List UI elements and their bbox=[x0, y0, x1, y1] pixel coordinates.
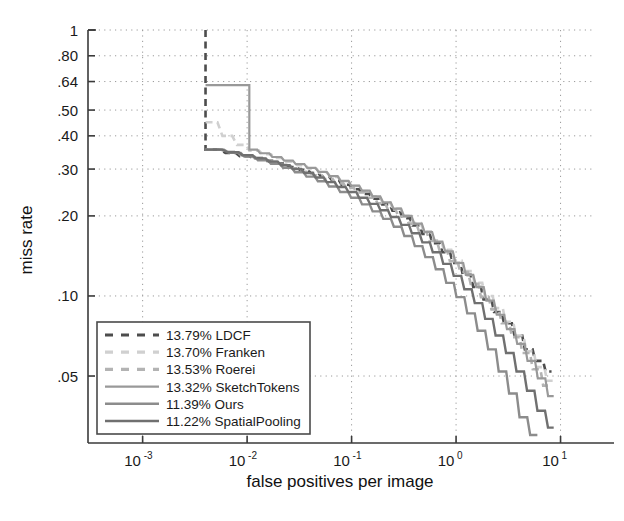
x-axis-label: false positives per image bbox=[246, 472, 433, 491]
x-tick-label-exponent: -3 bbox=[144, 450, 153, 461]
chart-svg: 10-310-210-1100101 1.80.64.50.40.30.20.1… bbox=[0, 0, 624, 521]
y-axis-label: miss rate bbox=[17, 206, 36, 275]
x-tick-label-exponent: -2 bbox=[248, 450, 257, 461]
y-tick-label: .30 bbox=[57, 161, 78, 178]
roc-miss-rate-chart: 10-310-210-1100101 1.80.64.50.40.30.20.1… bbox=[0, 0, 624, 521]
y-tick-label: .80 bbox=[57, 47, 78, 64]
legend-label-franken[interactable]: 13.70% Franken bbox=[166, 345, 265, 360]
y-tick-label: .05 bbox=[57, 368, 78, 385]
x-tick-label-base: 10 bbox=[229, 452, 246, 469]
x-tick-label-exponent: 0 bbox=[457, 450, 463, 461]
x-tick-label-base: 10 bbox=[542, 452, 559, 469]
legend-label-ldcf[interactable]: 13.79% LDCF bbox=[166, 328, 251, 343]
y-tick-label: .64 bbox=[57, 73, 78, 90]
x-tick-label-base: 10 bbox=[124, 452, 141, 469]
y-tick-label: .50 bbox=[57, 102, 78, 119]
legend-box[interactable]: 13.79% LDCF13.70% Franken13.53% Roerei13… bbox=[97, 322, 310, 434]
legend-label-roerei[interactable]: 13.53% Roerei bbox=[166, 362, 255, 377]
legend-label-spatialpooling[interactable]: 11.22% SpatialPooling bbox=[166, 414, 301, 429]
legend-label-sketchtokens[interactable]: 13.32% SketchTokens bbox=[166, 380, 300, 395]
x-tick-label-base: 10 bbox=[438, 452, 455, 469]
y-tick-label: 1 bbox=[70, 22, 78, 39]
x-tick-label-exponent: 1 bbox=[562, 450, 568, 461]
y-tick-label: .10 bbox=[57, 287, 78, 304]
y-tick-label: .40 bbox=[57, 127, 78, 144]
y-tick-label: .20 bbox=[57, 207, 78, 224]
x-tick-label-exponent: -1 bbox=[353, 450, 362, 461]
legend-label-ours[interactable]: 11.39% Ours bbox=[166, 397, 244, 412]
x-tick-label-base: 10 bbox=[333, 452, 350, 469]
